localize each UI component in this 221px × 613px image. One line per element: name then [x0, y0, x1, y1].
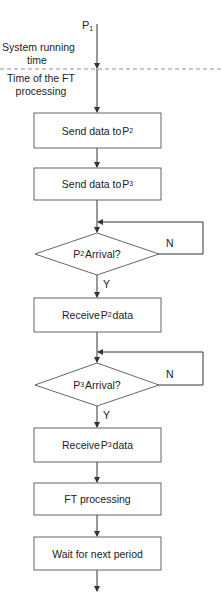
- yes-label-p2: Y: [103, 278, 110, 291]
- start-label-p1: P1: [82, 19, 93, 32]
- yes-label-p3: Y: [103, 409, 110, 422]
- no-label-p3: N: [166, 368, 174, 381]
- no-label-p2: N: [166, 237, 174, 250]
- region-label-ft-processing-time: Time of the FT processing: [6, 72, 76, 98]
- step-receive-p2: Receive P2 data: [34, 298, 161, 332]
- step-p3-arrival: P3 Arrival?: [35, 363, 159, 406]
- step-p2-arrival: P2 Arrival?: [35, 233, 159, 275]
- step-ft-processing: FT processing: [34, 483, 161, 515]
- step-send-p2: Send data to P2: [34, 113, 161, 148]
- region-label-system-running-time: System running time: [2, 41, 72, 67]
- step-receive-p3: Receive P3 data: [34, 428, 161, 462]
- step-wait-next-period: Wait for next period: [34, 537, 161, 570]
- step-send-p3: Send data to P3: [34, 168, 161, 200]
